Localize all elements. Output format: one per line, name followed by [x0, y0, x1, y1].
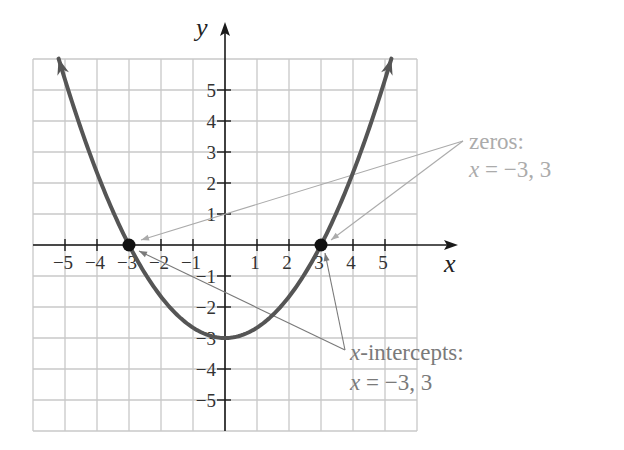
y-tick-label: 5 — [207, 80, 217, 101]
intercepts-pointer-line — [325, 253, 345, 350]
x-tick-label: −4 — [85, 252, 106, 273]
x-tick-label: 1 — [250, 252, 260, 273]
x-tick-label: −5 — [53, 252, 73, 273]
y-tick-label: 2 — [207, 173, 217, 194]
zeros-pointer-line — [331, 141, 463, 240]
x-tick-label: 4 — [346, 252, 356, 273]
x-intercept-point — [315, 239, 328, 252]
x-axis-label: x — [443, 249, 456, 278]
zeros-eq-values: = −3, 3 — [479, 157, 551, 182]
intercepts-eq-var: x — [349, 370, 361, 395]
intercepts-pointer-arrow-icon — [139, 251, 148, 257]
y-tick-label: 1 — [207, 204, 217, 225]
intercepts-title: x-intercepts: — [349, 340, 464, 365]
y-tick-label: −5 — [196, 390, 216, 411]
zeros-pointer-line — [141, 141, 463, 240]
x-tick-label: −2 — [149, 252, 169, 273]
x-tick-label: 5 — [378, 252, 388, 273]
y-tick-label: 3 — [207, 142, 217, 163]
intercepts-equation: x = −3, 3 — [349, 370, 432, 395]
x-tick-label: 2 — [282, 252, 292, 273]
intercepts-title-rest: -intercepts: — [360, 340, 463, 365]
zeros-equation: x = −3, 3 — [468, 157, 551, 182]
y-tick-label: −2 — [196, 297, 216, 318]
intercepts-pointer-arrow-icon — [324, 253, 330, 261]
y-tick-label: −4 — [196, 359, 217, 380]
zeros-eq-var: x — [468, 157, 480, 182]
intercepts-title-var: x — [349, 340, 361, 365]
y-axis-label: y — [193, 13, 208, 42]
y-tick-label: −1 — [196, 266, 216, 287]
parabola-chart: −5−4−3−2−11234554321−1−2−3−4−5 y x zeros… — [0, 0, 624, 450]
intercepts-eq-values: = −3, 3 — [360, 370, 432, 395]
zeros-title: zeros: — [469, 129, 524, 154]
x-intercept-point — [123, 239, 136, 252]
zeros-pointer-arrow-icon — [331, 233, 339, 240]
y-tick-label: 4 — [207, 111, 217, 132]
zeros-pointer-arrow-icon — [141, 235, 150, 241]
